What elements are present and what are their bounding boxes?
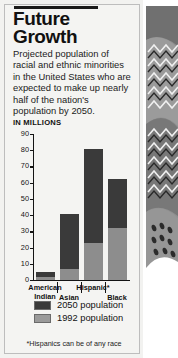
legend-label: 1992 population	[57, 313, 123, 323]
y-tick-label: 80	[21, 145, 29, 154]
units-label: IN MILLIONS	[13, 118, 61, 127]
chart-bar	[60, 214, 79, 281]
category-separator-tick	[81, 282, 82, 293]
chart-legend: 2050 population1992 population	[34, 300, 123, 326]
chart-bar	[84, 149, 103, 280]
category-label: Hispanic*	[69, 283, 117, 292]
y-tick-label: 40	[21, 210, 29, 219]
abstract-zigzag-illustration	[146, 6, 178, 287]
bar-segment-1992	[60, 269, 79, 280]
legend-item: 1992 population	[34, 313, 123, 323]
description-text: Projected population of racial and ethni…	[13, 48, 133, 116]
category-label-line: American	[21, 283, 69, 292]
y-tick-mark	[30, 280, 33, 281]
category-separator-tick	[105, 282, 106, 293]
decorative-art-panel	[143, 0, 178, 358]
title-line-2: Growth	[13, 28, 131, 46]
footnote: *Hispanics can be of any race	[14, 339, 134, 348]
y-tick-label: 10	[21, 259, 29, 268]
bar-segment-1992	[84, 243, 103, 280]
category-separator-tick	[57, 282, 58, 293]
bar-segment-1992	[108, 228, 127, 280]
page-title: Future Growth	[13, 10, 131, 46]
chart-bar	[36, 272, 55, 280]
y-tick-label: 70	[21, 161, 29, 170]
chart-bar	[108, 179, 127, 280]
legend-item: 2050 population	[34, 300, 123, 310]
bar-segment-2050	[60, 214, 79, 269]
y-tick-label: 20	[21, 243, 29, 252]
content-panel: Future Growth Projected population of ra…	[0, 0, 143, 358]
y-tick-label: 50	[21, 194, 29, 203]
bar-segment-2050	[84, 149, 103, 243]
y-tick-label: 60	[21, 178, 29, 187]
y-tick-label: 90	[21, 129, 29, 138]
category-label-line: Hispanic*	[69, 283, 117, 292]
bar-segment-1992	[36, 277, 55, 280]
legend-swatch	[34, 314, 51, 323]
bar-segment-2050	[108, 179, 127, 228]
legend-label: 2050 population	[57, 300, 123, 310]
y-tick-label: 30	[21, 226, 29, 235]
legend-swatch	[34, 301, 51, 310]
plot-area	[33, 134, 129, 280]
infographic-root: Future Growth Projected population of ra…	[0, 0, 178, 358]
bar-chart: 0102030405060708090 AmericanIndianAsianH…	[13, 130, 131, 290]
